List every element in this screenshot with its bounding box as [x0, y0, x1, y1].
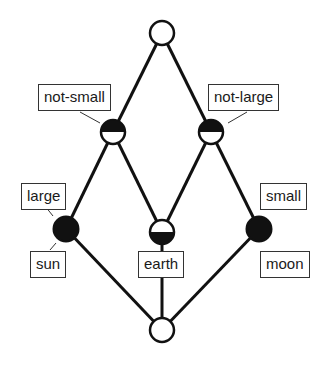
- node-large-sun: [54, 217, 79, 242]
- label-not-small: not-small: [38, 84, 111, 111]
- node-bottom: [150, 318, 174, 342]
- node-top: [150, 21, 174, 45]
- lattice-edges: [66, 33, 259, 330]
- edge-not-small-large: [66, 132, 113, 229]
- label-large: large: [21, 183, 66, 210]
- edge-not-large-earth: [162, 132, 211, 232]
- edge-small-bottom: [162, 229, 259, 330]
- label-sun: sun: [30, 251, 66, 278]
- label-not-large: not-large: [208, 84, 279, 111]
- edge-not-small-earth: [113, 132, 162, 232]
- edge-not-large-small: [211, 132, 259, 229]
- node-not-large: [199, 120, 223, 144]
- node-small-moon: [247, 217, 272, 242]
- node-not-small: [101, 120, 125, 144]
- label-moon: moon: [260, 251, 310, 278]
- edge-top-not-large: [162, 33, 211, 132]
- label-small: small: [260, 183, 307, 210]
- label-earth: earth: [138, 251, 184, 278]
- edge-large-bottom: [66, 229, 162, 330]
- edge-top-not-small: [113, 33, 162, 132]
- node-earth: [150, 220, 174, 244]
